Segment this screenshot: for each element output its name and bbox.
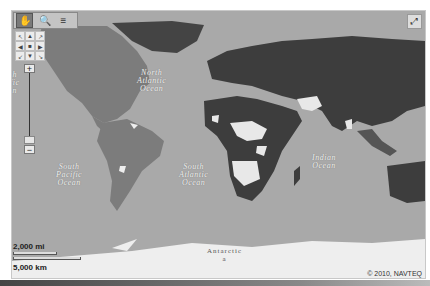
magnifier-icon[interactable]: 🔍 [37, 14, 52, 27]
hand-icon[interactable]: ✋ [16, 13, 33, 28]
pan-center-button[interactable]: ■ [25, 41, 35, 51]
layers-icon[interactable]: ≡ [56, 14, 71, 27]
pan-down-button[interactable]: ▼ [25, 51, 35, 61]
ocean-label-north-pacific: h fic n [11, 71, 20, 95]
pan-ne-button[interactable]: ↗ [35, 31, 45, 41]
pan-nw-button[interactable]: ↖ [15, 31, 25, 41]
scale-km-bar [13, 257, 81, 260]
ocean-label-indian: Indian Ocean [312, 154, 336, 170]
ocean-label-north-atlantic: North Atlantic Ocean [137, 69, 166, 93]
zoom-out-button[interactable]: − [24, 145, 35, 154]
map-viewport[interactable]: ✋ 🔍 ≡ ↖ ▲ ↗ ◀ ■ ▶ ↙ ▼ ↘ + − ⤢ h fic n No… [11, 10, 426, 279]
zoom-in-button[interactable]: + [24, 64, 35, 73]
expand-icon[interactable]: ⤢ [407, 14, 422, 29]
copyright-text: © 2010, NAVTEQ [367, 270, 422, 277]
pan-sw-button[interactable]: ↙ [15, 51, 25, 61]
zoom-slider-track[interactable] [29, 73, 30, 138]
ocean-label-south-pacific: South Pacific Ocean [56, 163, 82, 187]
pan-right-button[interactable]: ▶ [35, 41, 45, 51]
ocean-label-south-atlantic: South Atlantic Ocean [179, 163, 208, 187]
continent-label-antarctica: Antarctic a [207, 247, 242, 263]
scale-miles-bar [13, 252, 57, 255]
pan-control: ↖ ▲ ↗ ◀ ■ ▶ ↙ ▼ ↘ [15, 31, 45, 61]
zoom-slider-thumb[interactable] [24, 136, 35, 144]
window-bottom-edge [0, 280, 430, 286]
map-toolbar: ✋ 🔍 ≡ [13, 12, 78, 29]
scale-km-label: 5,000 km [13, 263, 47, 272]
scale-miles-label: 2,000 mi [13, 242, 45, 251]
pan-left-button[interactable]: ◀ [15, 41, 25, 51]
pan-up-button[interactable]: ▲ [25, 31, 35, 41]
world-map[interactable] [12, 11, 425, 278]
pan-se-button[interactable]: ↘ [35, 51, 45, 61]
